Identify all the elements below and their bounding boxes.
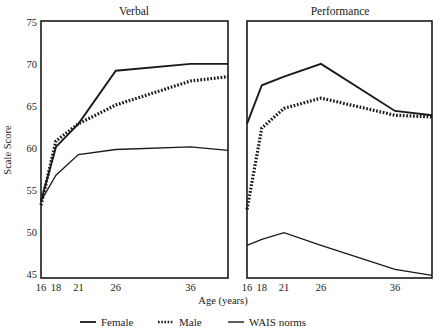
x-tick-18: 18: [51, 282, 62, 293]
y-axis-label: Scale Score: [2, 125, 13, 175]
y-tick-60: 60: [27, 143, 38, 154]
series-group-verbal: [41, 64, 228, 205]
x-tick-labels-performance: 1618212636: [242, 282, 401, 293]
series-group-performance: [247, 64, 432, 276]
y-tick-65: 65: [27, 101, 38, 112]
y-tick-55: 55: [27, 185, 38, 196]
scale-score-by-age-chart: Scale Score 75 70 65 60 55 50 45 Verbal …: [0, 0, 441, 333]
panel-title-performance: Performance: [311, 5, 370, 17]
plot-frame-performance: [247, 21, 432, 278]
series-male-performance: [247, 98, 432, 209]
legend-label-male: Male: [179, 316, 202, 328]
x-tick-36: 36: [390, 282, 401, 293]
series-wais-norms-verbal: [41, 147, 228, 201]
series-wais-norms-performance: [247, 233, 432, 276]
y-tick-50: 50: [27, 227, 38, 238]
chart-figure: Scale Score 75 70 65 60 55 50 45 Verbal …: [0, 0, 441, 333]
panel-title-verbal: Verbal: [119, 5, 149, 17]
x-tick-16: 16: [36, 282, 47, 293]
y-tick-75: 75: [27, 17, 38, 28]
x-tick-21: 21: [279, 282, 290, 293]
y-tick-labels: 75 70 65 60 55 50 45: [27, 17, 38, 280]
series-male-verbal: [41, 77, 228, 206]
x-tick-26: 26: [111, 282, 122, 293]
series-female-verbal: [41, 64, 228, 201]
x-tick-36: 36: [185, 282, 196, 293]
y-tick-70: 70: [27, 59, 38, 70]
y-tick-45: 45: [27, 269, 38, 280]
chart-legend: Female Male WAIS norms: [80, 316, 306, 328]
x-axis-label: Age (years): [198, 295, 248, 307]
x-tick-21: 21: [73, 282, 84, 293]
x-tick-16: 16: [242, 282, 253, 293]
legend-label-wais-norms: WAIS norms: [249, 316, 306, 328]
legend-label-female: Female: [101, 316, 133, 328]
x-tick-labels-verbal: 1618212636: [36, 282, 196, 293]
x-tick-26: 26: [316, 282, 327, 293]
x-tick-18: 18: [257, 282, 268, 293]
